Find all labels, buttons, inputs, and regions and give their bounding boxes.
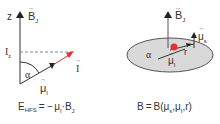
- mu-s-vec-bar: →: [198, 25, 204, 31]
- mu-i-right-vec-bar: →: [168, 50, 174, 56]
- bj-right-vec-bar: →: [175, 5, 181, 11]
- bj-arrowhead-icon: [164, 11, 172, 18]
- hfs-energy-formula: EHFS= −μI·BJ: [18, 101, 75, 114]
- mu-i-label: μI: [40, 82, 48, 96]
- spin-i-label: I: [76, 63, 79, 74]
- mu-s-arrowhead-icon: [191, 32, 197, 38]
- iz-label: Iz: [5, 46, 11, 59]
- left-vector-diagram: z BJ → Iz α μI → I → EHFS= −μI·BJ: [5, 5, 81, 114]
- spin-i-vec-bar: →: [75, 57, 81, 63]
- alpha-label-right: α: [146, 49, 152, 60]
- mu-i-vec-bar: →: [40, 76, 46, 82]
- bj-vec-bar: →: [28, 5, 34, 11]
- field-formula: B=B(μs,μI,r): [137, 101, 192, 114]
- z-axis-label: z: [7, 11, 12, 22]
- r-label: r: [184, 47, 187, 57]
- bj-label: BJ: [28, 10, 38, 24]
- right-orbit-diagram: BJ → μs → α r μI → B=B(μs,μI,r): [127, 5, 213, 114]
- hyperfine-diagram: z BJ → Iz α μI → I → EHFS= −μI·BJ BJ → μ…: [0, 0, 220, 124]
- z-axis-arrowhead-icon: [16, 11, 24, 18]
- alpha-label: α: [25, 69, 31, 80]
- bj-label-right: BJ: [175, 9, 185, 23]
